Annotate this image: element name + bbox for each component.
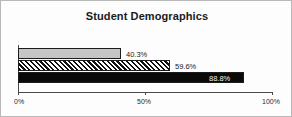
axis-tick-label-0: 0% — [14, 98, 24, 105]
axis-tick-label-50: 50% — [137, 98, 151, 105]
bar-value-label-2: 59.6% — [175, 61, 196, 70]
bar-value-label-3: 88.8% — [209, 73, 230, 82]
axis-tick-50 — [145, 92, 146, 95]
bar-series-2[interactable] — [18, 60, 170, 71]
plot-area: 0% 50% 100% 40.3% 59.6% 88.8% — [1, 1, 292, 117]
chart-container: Student Demographics 0% 50% 100% 40.3% 5… — [0, 0, 292, 117]
axis-tick-0 — [18, 92, 19, 95]
bar-row-2: 59.6% — [18, 60, 273, 71]
axis-tick-label-100: 100% — [262, 98, 280, 105]
bar-row-3: 88.8% — [18, 72, 273, 83]
bar-value-label-1: 40.3% — [126, 49, 147, 58]
bar-row-1: 40.3% — [18, 48, 273, 59]
axis-tick-100 — [272, 92, 273, 95]
bar-series-1[interactable] — [18, 48, 121, 59]
